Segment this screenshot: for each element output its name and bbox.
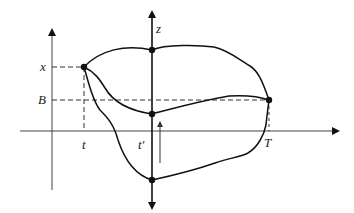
label-t: t [82,138,86,151]
z-axis-top-point [149,47,155,53]
top-outer-curve [84,45,269,100]
bottom-right-curve [152,100,269,180]
diagram-canvas [0,0,354,213]
z-axis-bottom-point [149,177,155,183]
left-lower-curve [84,67,152,180]
z-axis-middle-point [149,111,155,117]
start-point-x [81,64,87,70]
label-t-prime: t′ [138,138,144,151]
label-z-axis: z [156,22,161,35]
label-x: x [40,60,46,73]
middle-upper-curve [84,67,269,114]
label-T: T [264,136,271,149]
label-B: B [38,93,46,106]
end-point-T [266,97,272,103]
